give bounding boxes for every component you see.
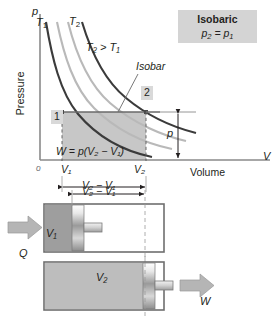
callout-equation: p2 = p1 [201, 27, 233, 41]
v1-tick-label: V₁ [61, 164, 71, 175]
pressure-dimension-label: p [167, 128, 173, 139]
isobaric-callout-box: Isobaric p2 = p1 [178, 10, 257, 43]
v2-tick-label: V₂ [134, 164, 145, 175]
x-axis-symbol: V [263, 151, 270, 162]
bottom-cylinder-gas-v2 [45, 263, 143, 309]
top-cylinder-piston-rod [84, 223, 102, 232]
heat-input-arrow [8, 216, 42, 239]
y-axis-label: Pressure [15, 62, 26, 126]
temperature-comparison-label: T₂ > T₁ [86, 42, 120, 53]
callout-title: Isobaric [197, 13, 237, 25]
top-cylinder-piston [72, 205, 84, 251]
work-output-arrow [180, 274, 214, 297]
isobaric-process-figure [0, 0, 278, 318]
work-equation-label: W = p(V₂ − V₁) [56, 146, 124, 157]
cylinder-delta-v-label: V₂ − V₁ [82, 186, 115, 197]
heat-arrow-label: Q [19, 248, 28, 259]
isobar-label: Isobar [136, 61, 165, 72]
top-cylinder-volume-label: V₁ [46, 228, 57, 239]
isotherm-t1-label: T1 [36, 17, 47, 30]
work-arrow-label: W [200, 296, 210, 307]
x-axis-label: Volume [190, 167, 225, 178]
isotherm-t2-label: T2 [69, 16, 80, 29]
bottom-cylinder-piston-rod [155, 281, 173, 290]
bottom-cylinder-volume-label: V₂ [96, 272, 108, 283]
state-point-1-label: 1 [51, 110, 63, 124]
origin-label: o [36, 164, 41, 173]
state-point-2-label: 2 [141, 86, 153, 100]
